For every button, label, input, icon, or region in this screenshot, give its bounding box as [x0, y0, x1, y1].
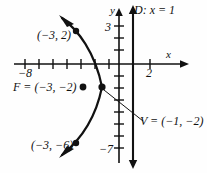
- focus-label: F = (−3, −2): [13, 81, 77, 93]
- y-tick-label-3: 3: [105, 21, 111, 33]
- y-axis-label: y: [110, 5, 115, 16]
- directrix-label: D: x = 1: [134, 4, 175, 16]
- point-lower-label: (−3, −6): [31, 139, 73, 151]
- vertex-label: V = (−1, −2): [140, 115, 203, 127]
- y-tick-label-neg7: −7: [99, 143, 113, 155]
- x-tick-label-2: 2: [146, 67, 152, 79]
- directrix-line: [129, 5, 137, 169]
- point-lower-dot: [73, 140, 79, 146]
- y-axis: [115, 8, 123, 163]
- point-upper-label: (−3, 2): [37, 29, 71, 41]
- vertex-leader-line: [104, 90, 143, 121]
- x-axis: [14, 60, 189, 68]
- x-axis-label: x: [166, 49, 171, 60]
- parabola-figure: y x −8 2 3 −7 D: x = 1 (−3, 2) (−3, −6) …: [0, 0, 207, 173]
- x-tick-label-neg8: −8: [18, 67, 32, 79]
- vertex-dot: [98, 83, 105, 90]
- focus-dot: [80, 84, 87, 91]
- point-upper-dot: [73, 28, 79, 34]
